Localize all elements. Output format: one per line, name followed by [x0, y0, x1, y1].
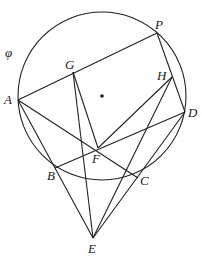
point-label-F: F [91, 151, 101, 166]
segment-HE [93, 77, 172, 238]
segment-HF [98, 77, 172, 148]
point-label-B: B [47, 168, 55, 183]
point-label-E: E [87, 241, 96, 256]
segment-BD [55, 112, 185, 168]
point-label-H: H [156, 68, 167, 83]
point-label-D: D [187, 105, 198, 120]
geometry-diagram: φ P G H A D F B C E [0, 0, 202, 257]
point-label-A: A [3, 92, 12, 107]
segments [18, 33, 185, 238]
point-label-C: C [140, 173, 149, 188]
point-label-G: G [65, 57, 75, 72]
segment-AE [18, 100, 93, 238]
point-label-P: P [154, 17, 163, 32]
circle-label-phi: φ [5, 45, 12, 60]
segment-AP [18, 33, 157, 100]
segment-GE [73, 72, 93, 238]
segment-DE [93, 112, 185, 238]
segment-GF [73, 72, 98, 148]
circle-center-dot [100, 94, 104, 98]
